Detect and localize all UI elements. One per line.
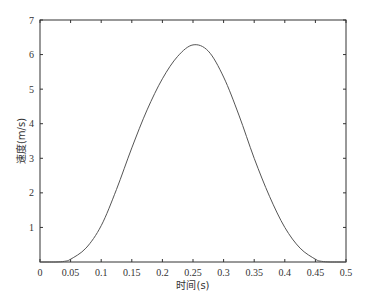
x-tick-label: 0.35	[245, 267, 263, 278]
y-tick-label: 1	[29, 222, 34, 233]
x-tick-label: 0.45	[307, 267, 325, 278]
y-tick-label: 4	[29, 118, 34, 129]
y-axis-label: 速度(m/s)	[15, 118, 27, 164]
x-tick-label: 0.1	[95, 267, 108, 278]
velocity-time-chart: 00.050.10.150.20.250.30.350.40.450.5 123…	[0, 0, 366, 306]
x-tick-label: 0.2	[156, 267, 169, 278]
x-tick-label: 0.5	[340, 267, 353, 278]
x-tick-label: 0.4	[279, 267, 292, 278]
y-tick-label: 3	[29, 153, 34, 164]
y-tick-label: 7	[29, 15, 34, 26]
plot-area	[40, 20, 346, 262]
x-axis-label: 时间(s)	[176, 279, 209, 291]
x-tick-label: 0.05	[62, 267, 80, 278]
y-tick-label: 5	[29, 84, 34, 95]
y-tick-label: 6	[29, 49, 34, 60]
x-tick-label: 0.15	[123, 267, 141, 278]
x-tick-label: 0.3	[217, 267, 230, 278]
y-tick-label: 2	[29, 187, 34, 198]
x-tick-label: 0	[38, 267, 43, 278]
x-tick-label: 0.25	[184, 267, 202, 278]
